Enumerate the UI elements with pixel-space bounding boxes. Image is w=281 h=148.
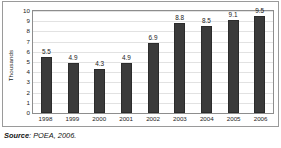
figure-container: Thousands 012345678910 5.54.94.34.96.98.… xyxy=(0,0,281,148)
bar xyxy=(94,69,105,113)
bar-value-label: 8.8 xyxy=(175,15,184,21)
x-axis-tick: 2000 xyxy=(86,116,113,126)
y-axis-tick: 8 xyxy=(27,28,30,34)
bar-series: 5.54.94.34.96.98.88.59.19.5 xyxy=(33,11,273,113)
y-axis-tick: 0 xyxy=(27,110,30,116)
y-axis-title: Thousands xyxy=(5,30,16,100)
bar-group: 8.8 xyxy=(166,11,193,113)
bar-group: 6.9 xyxy=(140,11,167,113)
bar xyxy=(41,57,52,113)
x-axis-tick: 2004 xyxy=(193,116,220,126)
x-axis-tick: 2005 xyxy=(220,116,247,126)
bar-value-label: 4.3 xyxy=(95,61,104,67)
y-axis-tick: 4 xyxy=(27,69,30,75)
bar-group: 8.5 xyxy=(193,11,220,113)
y-axis-tick: 5 xyxy=(27,59,30,65)
bar xyxy=(68,63,79,113)
bar-group: 4.3 xyxy=(86,11,113,113)
bar-group: 9.1 xyxy=(220,11,247,113)
y-axis-tick: 2 xyxy=(27,89,30,95)
bar-group: 9.5 xyxy=(246,11,273,113)
source-caption: Source: POEA, 2006. xyxy=(4,131,76,140)
y-axis-tick: 1 xyxy=(27,100,30,106)
y-axis-tick-labels: 012345678910 xyxy=(16,10,31,114)
source-value: POEA, 2006. xyxy=(33,131,76,140)
bar-value-label: 9.5 xyxy=(255,8,264,14)
x-axis-tick-labels: 199819992000200120022003200420052006 xyxy=(32,116,274,126)
bar-group: 4.9 xyxy=(113,11,140,113)
bar xyxy=(121,63,132,113)
bar xyxy=(148,43,159,113)
bar-value-label: 4.9 xyxy=(69,55,78,61)
y-axis-tick: 3 xyxy=(27,79,30,85)
y-axis-title-label: Thousands xyxy=(7,49,14,81)
x-axis-tick: 2006 xyxy=(247,116,274,126)
x-axis-tick: 2001 xyxy=(113,116,140,126)
bar xyxy=(254,16,265,113)
bar-group: 4.9 xyxy=(60,11,87,113)
y-axis-tick: 6 xyxy=(27,49,30,55)
bar-value-label: 9.1 xyxy=(229,12,238,18)
y-axis-tick: 10 xyxy=(23,8,30,14)
y-axis-tick: 9 xyxy=(27,18,30,24)
source-label: Source xyxy=(4,131,29,140)
x-axis-tick: 2002 xyxy=(140,116,167,126)
bar xyxy=(201,26,212,113)
bar-value-label: 8.5 xyxy=(202,18,211,24)
bar-value-label: 6.9 xyxy=(149,35,158,41)
bar-value-label: 4.9 xyxy=(122,55,131,61)
bar xyxy=(228,20,239,113)
x-axis-tick: 2003 xyxy=(166,116,193,126)
bar-group: 5.5 xyxy=(33,11,60,113)
x-axis-tick: 1999 xyxy=(59,116,86,126)
chart-frame: Thousands 012345678910 5.54.94.34.96.98.… xyxy=(2,1,279,127)
x-axis-tick: 1998 xyxy=(32,116,59,126)
y-axis-tick: 7 xyxy=(27,38,30,44)
plot-area: 5.54.94.34.96.98.88.59.19.5 xyxy=(32,10,274,114)
bar-value-label: 5.5 xyxy=(42,49,51,55)
bar xyxy=(174,23,185,113)
